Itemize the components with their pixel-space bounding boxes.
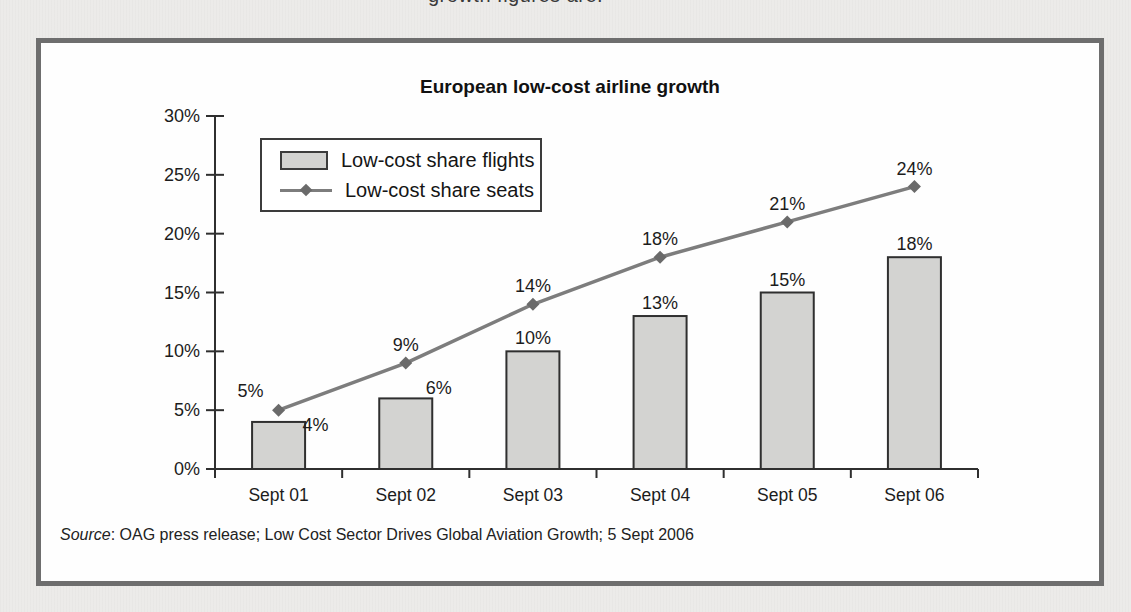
y-tick-label: 5% [174,400,200,420]
flights-value-label: 18% [896,234,932,254]
source-note: Source: OAG press release; Low Cost Sect… [60,526,694,544]
x-axis-label: Sept 04 [630,485,691,505]
diamond-marker [781,215,794,228]
legend-label-seats: Low-cost share seats [345,179,534,202]
bar-sept-02 [379,398,432,469]
flights-value-label: 6% [426,378,452,398]
y-tick-label: 25% [164,165,200,185]
diamond-marker [399,357,412,370]
y-tick-label: 30% [164,106,200,126]
y-tick-label: 10% [164,341,200,361]
bar-sept-01 [252,422,305,469]
chart-legend: Low-cost share flights Low-cost share se… [260,138,542,212]
flights-value-label: 4% [303,415,329,435]
diamond-marker [272,404,285,417]
chart-plot-area: 0%5%10%15%20%25%30%Sept 01Sept 02Sept 03… [41,43,1099,581]
line-swatch-icon [280,189,332,192]
source-prefix: Source [60,526,111,543]
x-axis-label: Sept 02 [376,485,436,505]
seats-value-label: 14% [515,276,551,296]
chart-panel: European low-cost airline growth 0%5%10%… [36,38,1104,586]
flights-value-label: 15% [769,270,805,290]
seats-value-label: 18% [642,229,678,249]
cropped-text-fragment: growth figures are: [428,0,828,7]
bar-sept-05 [761,293,814,470]
x-axis-label: Sept 06 [884,485,944,505]
bar-sept-04 [634,316,687,469]
diamond-marker [908,180,921,193]
diamond-marker [654,251,667,264]
legend-item-seats: Low-cost share seats [280,179,540,202]
flights-value-label: 10% [515,328,551,348]
x-axis-label: Sept 03 [503,485,563,505]
bar-sept-03 [506,351,559,469]
bar-sept-06 [888,257,941,469]
bar-swatch-icon [280,151,328,170]
diamond-marker-icon [300,184,313,197]
diamond-marker [526,298,539,311]
x-axis-label: Sept 05 [757,485,817,505]
seats-value-label: 24% [896,159,932,179]
seats-value-label: 21% [769,194,805,214]
y-tick-label: 15% [164,283,200,303]
flights-value-label: 13% [642,293,678,313]
legend-label-flights: Low-cost share flights [341,149,534,172]
x-axis-label: Sept 01 [248,485,308,505]
legend-item-flights: Low-cost share flights [280,149,540,172]
seats-line [279,187,915,411]
source-text: : OAG press release; Low Cost Sector Dri… [111,526,694,543]
seats-value-label: 9% [393,335,419,355]
y-tick-label: 0% [174,459,200,479]
y-tick-label: 20% [164,224,200,244]
cropped-text-line: growth figures are: [428,0,828,7]
seats-value-label: 5% [238,381,264,401]
